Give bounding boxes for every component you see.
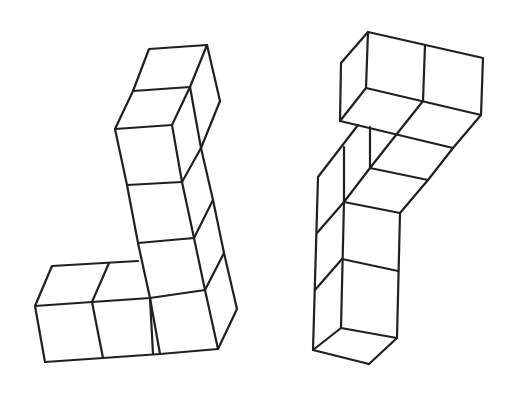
figure-description: Two isometric line drawings of polycube … [0,0,1,1]
left-cube-structure [35,45,237,362]
left-base-bottom [45,349,218,362]
right-column-left-edge [313,125,358,350]
left-base-front-top [35,290,205,306]
right-top-left-side [340,32,368,121]
left-top-face-2 [115,87,190,129]
right-cube-structure [313,32,483,364]
left-top-face-1 [133,45,207,91]
right-bottom-face [313,328,369,364]
figure-canvas: Two isometric line drawings of polycube … [0,0,521,401]
left-column-right-edge [201,148,237,349]
right-column-front-right [369,213,400,364]
cube-drawing [0,0,521,401]
right-column-front-left [341,202,344,328]
left-right-side-top [201,45,220,148]
